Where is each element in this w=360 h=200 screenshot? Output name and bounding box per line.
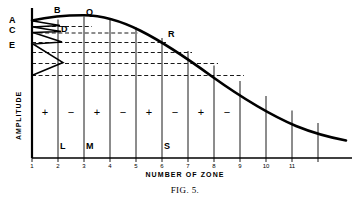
label-Q: Q <box>86 8 93 17</box>
zone-sign-6: − <box>167 107 183 118</box>
figure-caption: FIG. 5. <box>120 185 250 195</box>
x-tick-label-3: 3 <box>76 163 92 169</box>
y-axis-title: AMPLITUDE <box>15 81 22 151</box>
label-A: A <box>9 16 16 25</box>
x-tick-label-9: 9 <box>232 163 248 169</box>
x-tick-label-10: 10 <box>258 163 274 169</box>
zone-sign-7: + <box>193 107 209 118</box>
zone-sign-5: + <box>141 107 157 118</box>
x-tick-label-5: 5 <box>128 163 144 169</box>
label-S: S <box>164 142 170 151</box>
zone-sign-2: − <box>63 107 79 118</box>
x-axis-title: NUMBER OF ZONE <box>90 171 280 178</box>
x-tick-label-4: 4 <box>102 163 118 169</box>
label-M: M <box>86 142 94 151</box>
x-tick-label-8: 8 <box>206 163 222 169</box>
zone-sign-8: − <box>219 107 235 118</box>
x-tick-label-1: 1 <box>24 163 40 169</box>
label-B: B <box>54 6 61 15</box>
x-tick-label-11: 11 <box>284 163 300 169</box>
figure-container: A C E B Q D R L M S + − + − + − + − 1 2 … <box>0 0 360 200</box>
label-R: R <box>168 30 175 39</box>
zigzag-construction <box>33 21 63 75</box>
label-L: L <box>60 142 66 151</box>
zone-sign-4: − <box>115 107 131 118</box>
x-tick-label-2: 2 <box>50 163 66 169</box>
zone-sign-1: + <box>37 107 53 118</box>
label-C: C <box>9 26 16 35</box>
zone-sign-3: + <box>89 107 105 118</box>
plot-area <box>0 0 360 200</box>
label-E: E <box>9 41 15 50</box>
label-D: D <box>61 25 68 34</box>
zone-boundary-lines <box>58 17 318 159</box>
x-tick-label-7: 7 <box>180 163 196 169</box>
envelope-curve <box>32 15 346 140</box>
x-tick-label-6: 6 <box>154 163 170 169</box>
